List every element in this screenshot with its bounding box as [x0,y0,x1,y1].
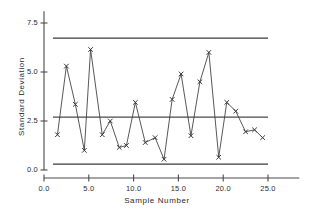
x-tick-label: 20.0 [209,184,237,193]
reference-lines [53,38,268,164]
y-tick-label: 0.0 [27,165,38,174]
standard-deviation-control-chart: 0.02.55.07.5 0.05.010.015.020.025.0 Samp… [0,0,314,214]
x-tick-label: 10.0 [120,184,148,193]
data-point [260,135,265,140]
x-tick-label: 5.0 [75,184,103,193]
data-point [233,109,238,114]
plot-area [0,0,314,214]
data-point [117,145,122,150]
y-tick-label: 2.5 [27,116,38,125]
data-point [153,135,158,140]
x-axis-title: Sample Number [0,196,314,205]
x-tick-label: 15.0 [164,184,192,193]
data-line [57,49,262,159]
data-markers [55,47,265,161]
x-tick-label: 0.0 [30,184,58,193]
y-tick-label: 5.0 [27,67,38,76]
y-axis-title: Standard Deviation [17,42,26,152]
y-tick-label: 7.5 [27,18,38,27]
axes [41,11,300,181]
data-point [108,119,113,124]
x-tick-label: 25.0 [254,184,282,193]
